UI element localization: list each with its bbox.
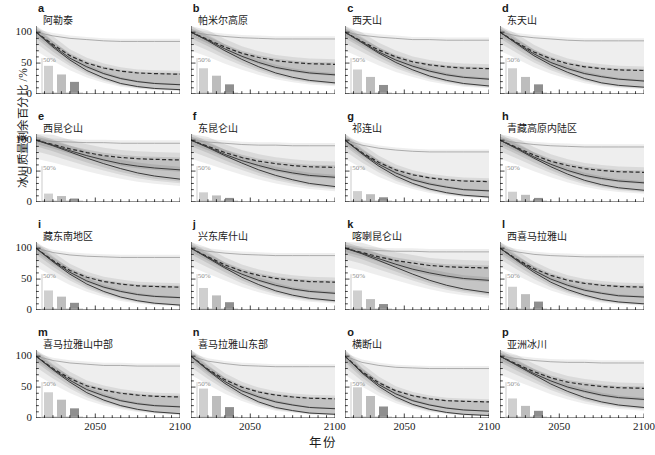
inset-50-percent-label: 50% (352, 57, 365, 64)
panel-letter-p: p (502, 327, 509, 338)
plot-area-h: 50% (500, 134, 644, 202)
y-tick-label: 0 (27, 412, 33, 423)
panel-e: e西昆仑山50%100500 (36, 124, 180, 212)
inset-50-percent-label: 50% (198, 57, 211, 64)
y-tick-label: 50 (21, 381, 32, 392)
panel-j: j兴东库什山50% (191, 232, 335, 320)
panel-m: m喜马拉雅山中部50%10050020502100 (36, 340, 180, 428)
inset-bar (521, 294, 530, 309)
inset-bar (70, 199, 79, 201)
panel-title-j: 兴东库什山 (198, 231, 248, 242)
inset-bar (379, 304, 388, 309)
panel-letter-e: e (38, 111, 44, 122)
inset-bar (44, 290, 53, 309)
x-tick-label: 2100 (478, 421, 500, 432)
inset-bar (212, 295, 221, 309)
x-tick-label: 2050 (84, 421, 106, 432)
inset-bar (534, 302, 543, 309)
panel-d: d东天山50% (500, 16, 644, 104)
inset-bar (70, 408, 79, 417)
panel-title-o: 横断山 (352, 339, 382, 350)
inset-50-percent-label: 50% (43, 57, 56, 64)
inset-bar (379, 197, 388, 201)
x-tick-label: 2100 (633, 421, 655, 432)
plot-area-e: 50% (36, 134, 180, 202)
inset-bar (353, 387, 362, 417)
inset-bar (353, 70, 362, 93)
x-tick-label: 2100 (324, 421, 346, 432)
panel-g: g祁连山50% (345, 124, 489, 212)
inset-bar (57, 400, 66, 417)
inset-50-percent-label: 50% (198, 381, 211, 388)
panel-a: a阿勒泰50%100500 (36, 16, 180, 104)
y-tick-label: 100 (16, 242, 33, 253)
y-tick-label: 0 (27, 88, 33, 99)
panel-l: l西喜马拉雅山50% (500, 232, 644, 320)
inset-50-percent-label: 50% (43, 273, 56, 280)
panel-i: i藏东南地区50%100500 (36, 232, 180, 320)
panel-title-i: 藏东南地区 (43, 231, 93, 242)
inset-bar (534, 411, 543, 417)
plot-area-j: 50% (191, 242, 335, 310)
panel-letter-b: b (193, 3, 200, 14)
inset-bar (353, 191, 362, 201)
panel-letter-f: f (193, 111, 197, 122)
panel-title-n: 喜马拉雅山东部 (198, 339, 268, 350)
panel-letter-k: k (347, 219, 353, 230)
panel-k: k喀喇昆仑山50% (345, 232, 489, 320)
plot-area-i: 50% (36, 242, 180, 310)
plot-area-d: 50% (500, 26, 644, 94)
panel-title-m: 喜马拉雅山中部 (43, 339, 113, 350)
panel-title-p: 亚洲冰川 (507, 339, 547, 350)
plot-area-a: 50% (36, 26, 180, 94)
y-tick-label: 50 (21, 165, 32, 176)
inset-bar (353, 290, 362, 309)
panel-grid: a阿勒泰50%100500b帕米尔高原50%c西天山50%d东天山50%e西昆仑… (36, 16, 644, 428)
y-tick-label: 0 (27, 196, 33, 207)
inset-bar (534, 84, 543, 93)
inset-bar (212, 396, 221, 417)
inset-50-percent-label: 50% (43, 381, 56, 388)
plot-area-g: 50% (345, 134, 489, 202)
inset-bar (379, 85, 388, 93)
panel-letter-i: i (38, 219, 41, 230)
panel-letter-d: d (502, 3, 509, 14)
inset-bar (57, 74, 66, 93)
inset-bar (44, 194, 53, 201)
panel-title-k: 喀喇昆仑山 (352, 231, 402, 242)
panel-title-f: 东昆仑山 (198, 123, 238, 134)
plot-area-m: 50% (36, 350, 180, 418)
inset-50-percent-label: 50% (507, 57, 520, 64)
inset-50-percent-label: 50% (507, 165, 520, 172)
panel-letter-c: c (347, 3, 353, 14)
panel-letter-g: g (347, 111, 354, 122)
inset-bar (366, 77, 375, 93)
panel-title-e: 西昆仑山 (43, 123, 83, 134)
panel-letter-l: l (502, 219, 505, 230)
inset-bar (70, 303, 79, 309)
plot-area-p: 50% (500, 350, 644, 418)
panel-h: h青藏高原内陆区50% (500, 124, 644, 212)
panel-title-d: 东天山 (507, 15, 537, 26)
inset-50-percent-label: 50% (352, 381, 365, 388)
plot-area-o: 50% (345, 350, 489, 418)
panel-title-a: 阿勒泰 (43, 15, 73, 26)
plot-area-f: 50% (191, 134, 335, 202)
panel-letter-m: m (38, 327, 48, 338)
inset-bar (508, 192, 517, 201)
inset-bar (508, 287, 517, 309)
inset-bar (57, 297, 66, 309)
inset-bar (534, 198, 543, 201)
x-tick-label: 2050 (394, 421, 416, 432)
inset-bar (225, 302, 234, 309)
inset-50-percent-label: 50% (43, 165, 56, 172)
panel-o: o横断山50%20502100 (345, 340, 489, 428)
panel-title-g: 祁连山 (352, 123, 382, 134)
x-tick-label: 2050 (239, 421, 261, 432)
plot-area-c: 50% (345, 26, 489, 94)
panel-letter-a: a (38, 3, 44, 14)
inset-bar (212, 76, 221, 93)
inset-50-percent-label: 50% (198, 165, 211, 172)
y-tick-label: 50 (21, 273, 32, 284)
x-tick-label: 2050 (548, 421, 570, 432)
